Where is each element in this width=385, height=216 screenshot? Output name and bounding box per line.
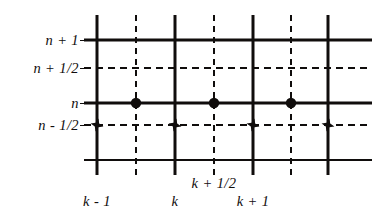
x-axis-label-3: k + 1 — [237, 193, 270, 210]
y-axis-label-2: n — [71, 95, 79, 112]
y-axis-label-3: n - 1/2 — [38, 117, 79, 134]
y-axis-tick-0 — [80, 40, 86, 41]
x-axis-label-0: k - 1 — [83, 193, 111, 210]
circle-marker-1 — [209, 98, 219, 108]
x-axis-label-1: k — [172, 193, 179, 210]
y-axis-tick-1 — [80, 68, 86, 69]
y-axis-tick-2 — [80, 103, 86, 104]
circle-marker-0 — [131, 98, 141, 108]
staggered-grid-figure: n + 1n + 1/2nn - 1/2 k - 1kk + 1/2k + 1 — [0, 0, 385, 216]
star-markers — [91, 119, 335, 132]
x-axis-label-2: k + 1/2 — [192, 175, 237, 192]
y-axis-tick-3 — [80, 125, 86, 126]
y-axis-label-1: n + 1/2 — [33, 60, 79, 77]
circle-marker-2 — [286, 98, 296, 108]
y-axis-label-0: n + 1 — [45, 32, 79, 49]
